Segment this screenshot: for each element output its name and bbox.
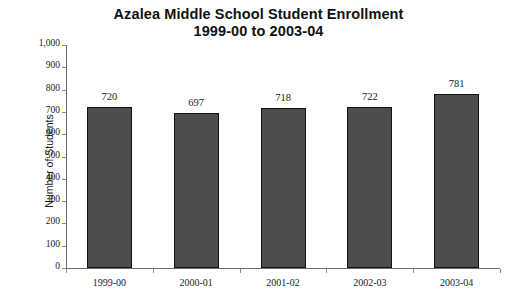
y-tick-mark <box>62 201 66 202</box>
y-tick-label: 600 <box>20 127 60 137</box>
x-category-label: 1999-00 <box>69 277 149 288</box>
y-tick-mark <box>62 90 66 91</box>
x-tick-mark <box>240 269 241 273</box>
plot-area: 1,0009008007006005004003002001000 720697… <box>66 45 500 268</box>
y-tick-label: 900 <box>20 60 60 70</box>
bar <box>261 108 306 268</box>
x-category-label: 2000-01 <box>156 277 236 288</box>
y-tick-mark <box>62 112 66 113</box>
bar-value-label: 781 <box>427 78 487 89</box>
y-axis-line <box>66 45 67 268</box>
y-tick-label: 400 <box>20 172 60 182</box>
x-axis-line <box>66 268 500 269</box>
x-category-label: 2002-03 <box>330 277 410 288</box>
y-tick-label: 200 <box>20 216 60 226</box>
y-tick-mark <box>62 67 66 68</box>
chart-title: Azalea Middle School Student Enrollment … <box>0 6 517 40</box>
bar <box>434 94 479 268</box>
x-category-label: 2003-04 <box>417 277 497 288</box>
y-tick-mark <box>62 134 66 135</box>
x-tick-mark <box>500 269 501 273</box>
y-tick-label: 700 <box>20 105 60 115</box>
x-category-label: 2001-02 <box>243 277 323 288</box>
bar <box>174 113 219 268</box>
bar-chart: Azalea Middle School Student Enrollment … <box>0 0 517 300</box>
bar-value-label: 718 <box>253 92 313 103</box>
y-tick-label: 100 <box>20 239 60 249</box>
bar <box>87 107 132 268</box>
y-tick-label: 0 <box>20 261 60 271</box>
x-tick-mark <box>413 269 414 273</box>
y-tick-mark <box>62 223 66 224</box>
chart-title-line-1: Azalea Middle School Student Enrollment <box>0 6 517 23</box>
y-tick-label: 1,000 <box>20 38 60 48</box>
bar-value-label: 720 <box>79 91 139 102</box>
bar <box>347 107 392 268</box>
y-tick-mark <box>62 157 66 158</box>
chart-title-line-2: 1999-00 to 2003-04 <box>0 23 517 40</box>
y-tick-mark <box>62 45 66 46</box>
y-tick-label: 500 <box>20 150 60 160</box>
x-tick-mark <box>66 269 67 273</box>
y-tick-mark <box>62 179 66 180</box>
bar-value-label: 697 <box>166 97 226 108</box>
y-tick-mark <box>62 246 66 247</box>
x-tick-mark <box>153 269 154 273</box>
x-tick-mark <box>326 269 327 273</box>
y-tick-label: 800 <box>20 83 60 93</box>
y-tick-label: 300 <box>20 194 60 204</box>
bar-value-label: 722 <box>340 91 400 102</box>
